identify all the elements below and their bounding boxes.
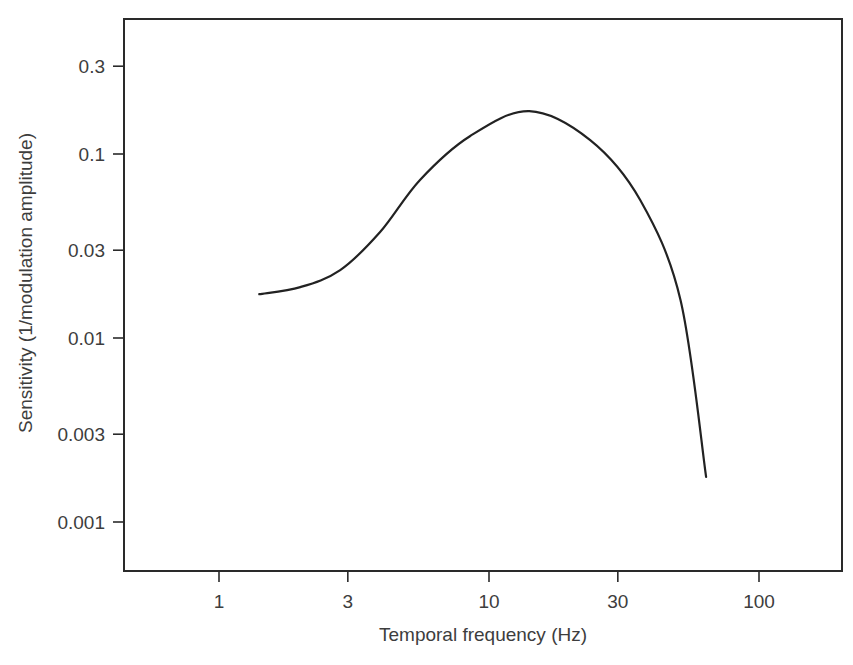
chart: 0.0010.0030.010.030.10.3 131030100 Tempo…	[0, 0, 853, 665]
x-tick-label: 3	[343, 591, 354, 612]
y-axis-ticks: 0.0010.0030.010.030.10.3	[57, 56, 124, 533]
y-axis-title: Sensitivity (1/modulation amplitude)	[15, 133, 36, 433]
plot-frame	[124, 19, 842, 571]
x-axis-title: Temporal frequency (Hz)	[379, 624, 587, 645]
y-tick-label: 0.03	[68, 240, 105, 261]
x-tick-label: 10	[478, 591, 499, 612]
x-tick-label: 30	[607, 591, 628, 612]
x-axis-ticks: 131030100	[214, 571, 775, 612]
y-tick-label: 0.01	[68, 328, 105, 349]
y-tick-label: 0.001	[57, 512, 105, 533]
x-tick-label: 1	[214, 591, 225, 612]
y-tick-label: 0.1	[79, 144, 105, 165]
x-tick-label: 100	[743, 591, 775, 612]
y-tick-label: 0.3	[79, 56, 105, 77]
y-tick-label: 0.003	[57, 424, 105, 445]
sensitivity-curve	[259, 111, 706, 477]
